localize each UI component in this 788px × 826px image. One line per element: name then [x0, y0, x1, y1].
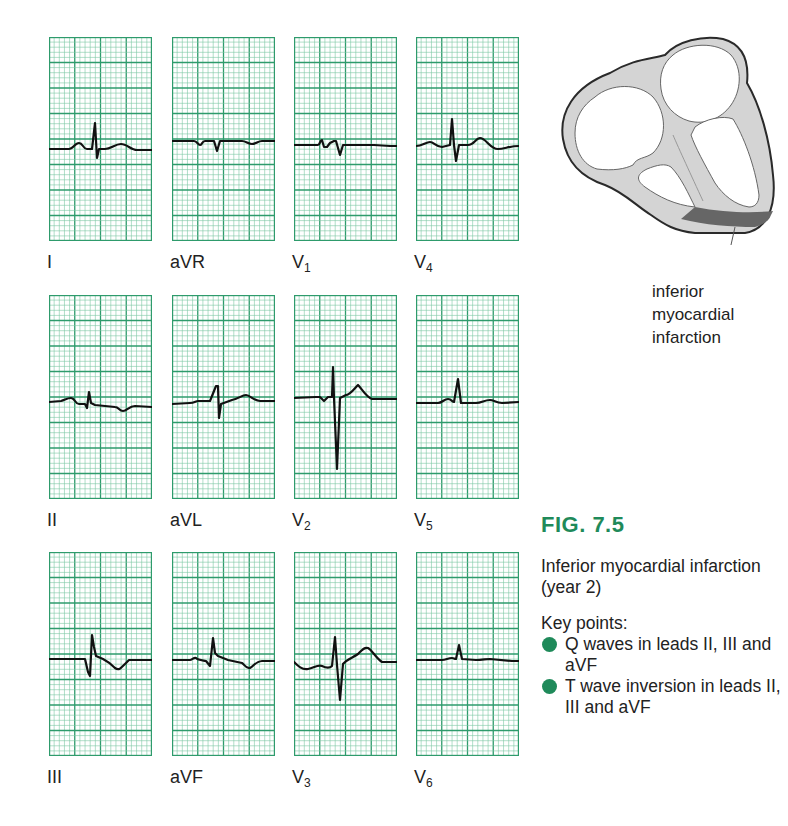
- infarct-label-line-3: infarction: [652, 326, 734, 349]
- ecg-panel-v1: [294, 37, 397, 241]
- lead-label-iii: III: [47, 768, 62, 786]
- lead-label-avl: aVL: [170, 511, 202, 529]
- lead-subscript: 2: [304, 519, 311, 533]
- key-point-text: Q waves in leads II, III and aVF: [565, 634, 771, 675]
- lead-label-v3: V3: [292, 768, 311, 789]
- lead-name: aVL: [170, 510, 202, 530]
- ecg-panel-v4: [416, 37, 519, 241]
- infarct-label: inferior myocardial infarction: [652, 280, 734, 349]
- ecg-panel-ii: [49, 295, 152, 499]
- lead-label-avr: aVR: [170, 253, 205, 271]
- key-point-text: T wave inversion in leads II, III and aV…: [565, 676, 781, 717]
- lead-name: V: [414, 767, 426, 787]
- lead-label-i: I: [47, 253, 52, 271]
- lead-subscript: 4: [426, 261, 433, 275]
- lead-name: V: [292, 252, 304, 272]
- bullet-dot-icon: [542, 637, 557, 652]
- lead-name: V: [414, 510, 426, 530]
- infarct-label-line-2: myocardial: [652, 303, 734, 326]
- key-point: T wave inversion in leads II, III and aV…: [541, 676, 786, 718]
- lead-name: V: [292, 767, 304, 787]
- ecg-panel-avr: [172, 37, 275, 241]
- lead-subscript: 6: [426, 776, 433, 790]
- lead-subscript: 5: [426, 519, 433, 533]
- ecg-panel-v3: [294, 552, 397, 756]
- ecg-panel-i: [49, 37, 152, 241]
- lead-subscript: 1: [304, 261, 311, 275]
- lead-name: III: [47, 767, 62, 787]
- ecg-panel-v5: [416, 295, 519, 499]
- lead-label-v4: V4: [414, 253, 433, 274]
- ecg-panel-avl: [172, 295, 275, 499]
- ecg-panel-v6: [416, 552, 519, 756]
- lead-name: aVR: [170, 252, 205, 272]
- heart-diagram: [555, 35, 785, 245]
- ecg-panel-iii: [49, 552, 152, 756]
- key-points-title: Key points:: [541, 613, 628, 634]
- infarct-label-line-1: inferior: [652, 280, 734, 303]
- lead-name: II: [47, 510, 57, 530]
- lead-label-avf: aVF: [170, 768, 203, 786]
- lead-subscript: 3: [304, 776, 311, 790]
- lead-label-ii: II: [47, 511, 57, 529]
- lead-name: V: [292, 510, 304, 530]
- figure-number: FIG. 7.5: [541, 512, 624, 538]
- figure-caption: Inferior myocardial infarction (year 2): [541, 556, 781, 598]
- lead-label-v1: V1: [292, 253, 311, 274]
- lead-label-v2: V2: [292, 511, 311, 532]
- ecg-panel-v2: [294, 295, 397, 499]
- lead-name: aVF: [170, 767, 203, 787]
- lead-name: I: [47, 252, 52, 272]
- ecg-panel-avf: [172, 552, 275, 756]
- lead-label-v6: V6: [414, 768, 433, 789]
- key-points-list: Q waves in leads II, III and aVF T wave …: [541, 634, 786, 718]
- bullet-dot-icon: [542, 679, 557, 694]
- lead-name: V: [414, 252, 426, 272]
- key-point: Q waves in leads II, III and aVF: [541, 634, 786, 676]
- lead-label-v5: V5: [414, 511, 433, 532]
